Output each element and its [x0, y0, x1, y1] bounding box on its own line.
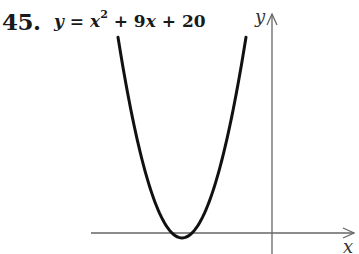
- x-axis-label: x: [343, 236, 353, 254]
- y-axis-label: y: [255, 6, 265, 27]
- parabola-curve: [118, 37, 246, 238]
- graph: [0, 0, 359, 254]
